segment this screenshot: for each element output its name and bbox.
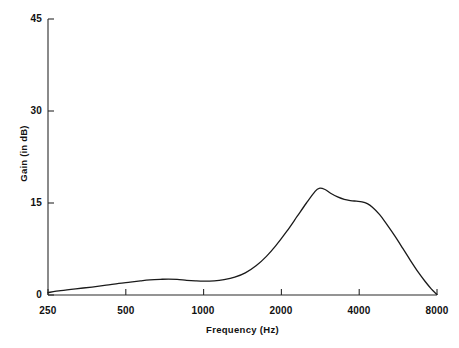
x-tick-label-4000: 4000 (329, 305, 389, 316)
chart-figure: 45 30 15 0 250 500 1000 2000 4000 8000 G… (0, 0, 459, 348)
x-tick-label-2000: 2000 (251, 305, 311, 316)
x-tick-label-500: 500 (96, 305, 156, 316)
x-tick-label-250: 250 (18, 305, 78, 316)
chart-plot-area (0, 0, 459, 348)
x-axis-ticks (48, 289, 437, 295)
x-axis-title: Frequency (Hz) (48, 324, 437, 335)
y-axis-ticks (48, 19, 54, 295)
y-tick-label-0: 0 (12, 289, 42, 300)
gain-curve (48, 188, 437, 294)
y-tick-label-15: 15 (12, 197, 42, 208)
x-tick-label-8000: 8000 (407, 305, 459, 316)
axis-lines (48, 19, 437, 295)
y-axis-title: Gain (in dB) (18, 109, 29, 199)
y-tick-label-45: 45 (12, 13, 42, 24)
x-tick-label-1000: 1000 (173, 305, 233, 316)
